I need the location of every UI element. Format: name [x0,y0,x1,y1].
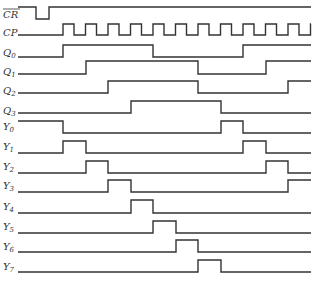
signal-label-cp: CP [3,27,18,38]
signal-label-y3: Y3 [3,180,15,193]
signal-label-q1: Q1 [3,66,16,79]
waveform-y2 [18,161,311,173]
signal-label-y7: Y7 [3,261,15,274]
signal-label-y6: Y6 [3,241,15,254]
signal-label-y0: Y0 [3,121,15,134]
signal-label-q0: Q0 [3,47,16,60]
signal-label-q3: Q3 [3,105,16,118]
timing-diagram: CRCPQ0Q1Q2Q3Y0Y1Y2Y3Y4Y5Y6Y7 [0,0,316,286]
waveform-y3 [18,180,311,192]
waveform-y1 [18,141,311,153]
waveform-y5 [18,221,311,233]
waveform-y0 [18,121,311,133]
signal-label-cr: CR [3,9,19,20]
signal-label-q2: Q2 [3,85,16,98]
signal-label-y2: Y2 [3,161,15,174]
waveform-q2 [18,81,311,93]
waveform-cr [18,7,311,19]
waveform-y6 [18,240,311,252]
signal-label-y1: Y1 [3,141,14,154]
signal-label-y4: Y4 [3,201,14,214]
signal-label-y5: Y5 [3,221,15,234]
signal-labels: CRCPQ0Q1Q2Q3Y0Y1Y2Y3Y4Y5Y6Y7 [3,9,20,274]
waveform-y4 [18,200,311,213]
waveform-q1 [18,61,311,74]
waveform-cp [18,24,311,35]
signal-waveforms [18,7,311,272]
waveform-q0 [18,45,311,57]
waveform-q3 [18,101,311,113]
waveform-y7 [18,260,311,272]
